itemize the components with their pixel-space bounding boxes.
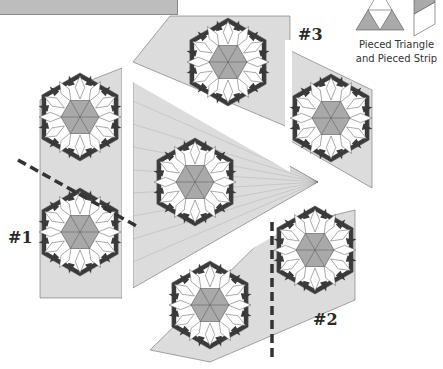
legend-shapes xyxy=(356,0,435,36)
section-label-1: #1 xyxy=(8,228,33,247)
legend-line-1: Pieced Triangle xyxy=(350,38,443,52)
section-label-2: #2 xyxy=(313,310,338,329)
gap-3 xyxy=(285,40,292,150)
legend-caption: Pieced Triangle and Pieced Strip xyxy=(350,38,443,66)
legend-line-2: and Pieced Strip xyxy=(350,52,443,66)
section-label-3: #3 xyxy=(298,25,323,44)
legend-pieced-triangle-left xyxy=(356,10,380,30)
gap-0 xyxy=(122,60,133,300)
legend-pieced-triangle-top xyxy=(368,0,392,10)
legend-pieced-triangle-right xyxy=(380,10,404,30)
